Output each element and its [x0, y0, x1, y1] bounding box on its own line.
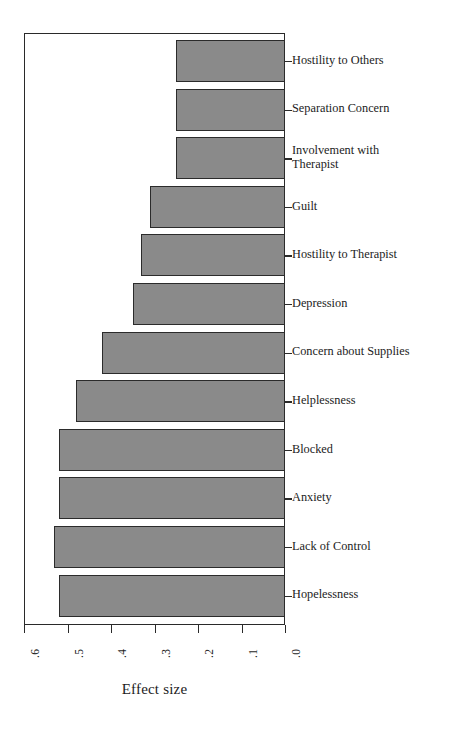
category-label: Hopelessness [292, 587, 447, 602]
category-label: Involvement with Therapist [292, 143, 447, 172]
category-label: Lack of Control [292, 539, 447, 554]
bar [176, 137, 285, 179]
category-tick [285, 596, 292, 597]
x-tick [24, 625, 25, 633]
x-tick [242, 625, 243, 633]
category-tick [285, 255, 292, 256]
x-tick [68, 625, 69, 633]
x-tick-label: .4 [116, 649, 128, 658]
x-tick-label: .5 [73, 649, 85, 658]
bar [141, 234, 285, 276]
category-tick [285, 353, 292, 354]
category-label: Anxiety [292, 490, 447, 505]
x-tick [111, 625, 112, 633]
bar [76, 380, 285, 422]
x-tick-label: .1 [247, 649, 259, 658]
category-tick [285, 498, 292, 499]
bar [54, 526, 285, 568]
category-labels: Hostility to OthersSeparation ConcernInv… [292, 0, 449, 729]
x-tick [285, 625, 286, 633]
bar [102, 332, 285, 374]
bar [59, 575, 285, 617]
x-axis-tick-marks [0, 625, 449, 635]
x-tick-label: .6 [29, 649, 41, 658]
x-tick-label: .0 [290, 649, 302, 658]
category-tick [285, 207, 292, 208]
x-tick [198, 625, 199, 633]
bar [59, 429, 285, 471]
category-label: Hostility to Therapist [292, 247, 447, 262]
category-label: Helplessness [292, 393, 447, 408]
x-axis-tick-labels: .6.5.4.3.2.1.0 [0, 636, 449, 676]
x-tick [155, 625, 156, 633]
category-label: Blocked [292, 442, 447, 457]
x-tick-label: .2 [203, 649, 215, 658]
x-axis-title: Effect size [24, 681, 285, 698]
category-tick [285, 158, 292, 159]
bar [176, 40, 285, 82]
category-label: Concern about Supplies [292, 344, 447, 359]
effect-size-bar-chart: Hostility to OthersSeparation ConcernInv… [0, 0, 449, 729]
category-tick [285, 450, 292, 451]
category-label: Separation Concern [292, 101, 447, 116]
category-tick [285, 401, 292, 402]
category-label: Depression [292, 296, 447, 311]
bar [176, 89, 285, 131]
category-tick [285, 61, 292, 62]
category-tick [285, 110, 292, 111]
bar [150, 186, 285, 228]
bars-layer [24, 33, 285, 625]
x-tick-label: .3 [160, 649, 172, 658]
category-tick [285, 304, 292, 305]
category-label: Guilt [292, 199, 447, 214]
category-label: Hostility to Others [292, 53, 447, 68]
bar [59, 477, 285, 519]
bar [133, 283, 285, 325]
category-tick [285, 547, 292, 548]
